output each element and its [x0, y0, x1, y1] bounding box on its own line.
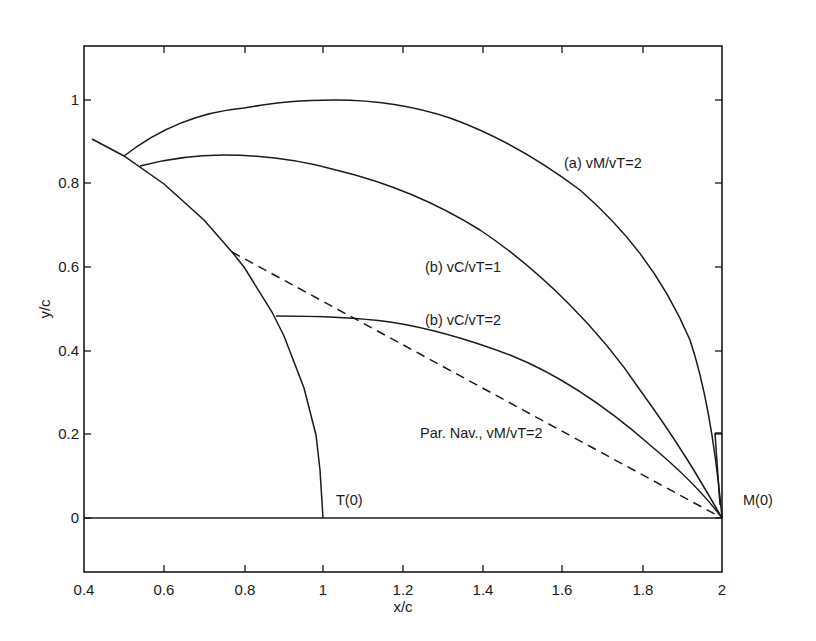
y-tick-labels: 0 0.2 0.4 0.6 0.8 1: [58, 91, 79, 526]
x-tick-label: 1.4: [473, 581, 494, 598]
y-tick-label: 0.8: [58, 174, 79, 191]
x-tick-label: 0.6: [154, 581, 175, 598]
annotation-curve-b2: (b) vC/vT=2: [425, 312, 501, 328]
x-tick-label: 1: [319, 581, 327, 598]
annotation-m0: M(0): [743, 492, 773, 508]
m0-marker-line: [715, 433, 720, 505]
x-tick-labels: 0.4 0.6 0.8 1 1.2 1.4 1.6 1.8 2: [74, 581, 727, 598]
annotation-curve-b1: (b) vC/vT=1: [425, 259, 501, 275]
y-tick-label: 0.4: [58, 342, 79, 359]
annotation-curve-a: (a) vM/vT=2: [564, 155, 642, 171]
y-tick-label: 0.6: [58, 258, 79, 275]
annotation-t0: T(0): [336, 492, 363, 508]
plot-frame: [84, 46, 722, 572]
x-tick-label: 0.4: [74, 581, 95, 598]
x-ticks: [164, 46, 643, 572]
annotation-par-nav: Par. Nav., vM/vT=2: [420, 425, 543, 441]
y-tick-label: 0.2: [58, 425, 79, 442]
x-axis-label: x/c: [393, 598, 413, 615]
curve-b-vc-vt-2: [276, 316, 722, 518]
y-axis-label: y/c: [36, 299, 53, 319]
x-tick-label: 2: [718, 581, 726, 598]
x-tick-label: 0.8: [235, 581, 256, 598]
x-tick-label: 1.6: [552, 581, 573, 598]
chart: 0.4 0.6 0.8 1 1.2 1.4 1.6 1.8 2 0 0.2 0.…: [0, 0, 816, 641]
y-tick-label: 0: [71, 509, 79, 526]
target-circle-curve: [92, 139, 323, 518]
y-tick-label: 1: [71, 91, 79, 108]
x-tick-label: 1.2: [393, 581, 414, 598]
parallel-navigation-dashed-line: [232, 252, 722, 518]
curve-b-vc-vt-1: [140, 155, 722, 518]
x-tick-label: 1.8: [633, 581, 654, 598]
